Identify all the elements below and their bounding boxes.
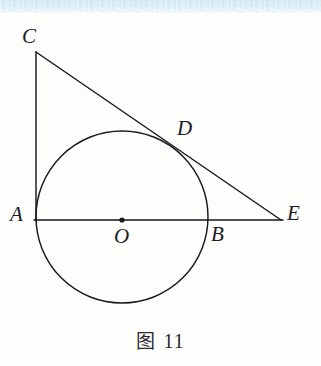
circle-O (36, 131, 208, 303)
figure-page: C A O B D E 图 11 (0, 0, 321, 366)
center-point-O-dot (119, 217, 124, 222)
caption-label: 图 (136, 330, 156, 352)
caption-number: 11 (163, 330, 184, 352)
point-label-O: O (114, 226, 129, 247)
point-label-C: C (22, 26, 36, 47)
figure-caption: 图 11 (0, 326, 321, 353)
point-label-A: A (10, 204, 23, 225)
point-label-D: D (177, 118, 192, 139)
geometry-figure (0, 0, 321, 366)
point-label-E: E (287, 203, 300, 224)
segment-CE-tangent (36, 52, 281, 220)
point-label-B: B (211, 224, 224, 245)
